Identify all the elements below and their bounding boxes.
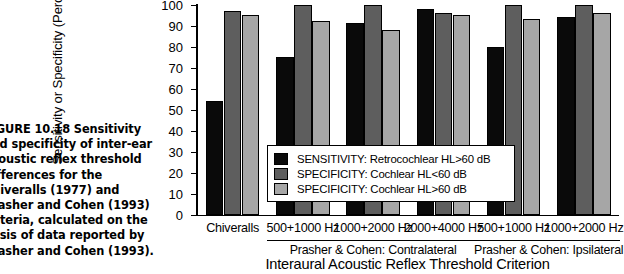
y-axis-tick-label: 100 <box>155 0 183 12</box>
y-axis-tick: 40 <box>191 131 196 133</box>
y-axis-tick: 0 <box>191 215 196 217</box>
x-axis-line <box>196 215 619 217</box>
legend-item: SENSITIVITY: Retrocochlear HL>60 dB <box>274 151 507 166</box>
legend-swatch-specificity-cochlear-gt60 <box>274 183 288 195</box>
bar-group <box>198 4 268 215</box>
bar <box>224 11 242 215</box>
legend-swatch-specificity-cochlear-lt60 <box>274 168 288 180</box>
y-axis-tick: 20 <box>191 173 196 175</box>
legend-label: SENSITIVITY: Retrocochlear HL>60 dB <box>297 153 490 165</box>
x-axis-tick-label: 500+1000 Hz <box>477 221 550 235</box>
bar <box>593 13 611 215</box>
y-axis-tick-label: 50 <box>155 102 183 117</box>
group-bracket-label: Prasher & Cohen: Ipsilateral <box>474 243 623 257</box>
x-axis-tick-label: 2000+4000 Hz <box>404 221 483 235</box>
bar <box>242 15 260 215</box>
legend-item: SPECIFICITY: Cochlear HL<60 dB <box>274 166 507 181</box>
chart-legend: SENSITIVITY: Retrocochlear HL>60 dB SPEC… <box>267 145 515 202</box>
y-axis-label: Sensitivity or Specificity (Percent) <box>50 0 65 178</box>
group-bracket-rule <box>478 240 620 241</box>
y-axis-tick: 70 <box>191 68 196 70</box>
y-axis-tick-label: 90 <box>155 18 183 33</box>
y-axis-tick: 90 <box>191 26 196 28</box>
bar-group <box>549 4 619 215</box>
group-bracket-label: Prasher & Cohen: Contralateral <box>290 243 457 257</box>
x-axis-tick-label: 1000+2000 Hz <box>333 221 412 235</box>
legend-label: SPECIFICITY: Cochlear HL>60 dB <box>297 183 467 195</box>
bar <box>523 19 541 214</box>
bar <box>575 5 593 215</box>
bar <box>206 101 224 214</box>
legend-label: SPECIFICITY: Cochlear HL<60 dB <box>297 168 467 180</box>
legend-item: SPECIFICITY: Cochlear HL>60 dB <box>274 181 507 196</box>
y-axis-tick-label: 60 <box>155 81 183 96</box>
y-axis-tick-label: 0 <box>155 207 183 222</box>
y-axis-tick: 100 <box>191 5 196 7</box>
x-axis-tick-label: 1000+2000 Hz <box>544 221 623 235</box>
y-axis-tick-label: 30 <box>155 144 183 159</box>
bar <box>557 17 575 214</box>
y-axis-tick-label: 20 <box>155 165 183 180</box>
y-axis-tick-label: 80 <box>155 39 183 54</box>
y-axis-tick-label: 40 <box>155 123 183 138</box>
y-axis-tick: 10 <box>191 194 196 196</box>
y-axis-tick: 30 <box>191 152 196 154</box>
y-axis-tick: 80 <box>191 47 196 49</box>
x-axis-tick-label: Chiveralls <box>206 221 259 235</box>
y-axis-tick: 60 <box>191 89 196 91</box>
y-axis-tick: 50 <box>191 110 196 112</box>
x-axis-tick-label: 500+1000 Hz <box>267 221 340 235</box>
y-axis-tick-label: 10 <box>155 186 183 201</box>
group-bracket-rule <box>267 240 480 241</box>
x-axis-label: Interaural Acoustic Reflex Threshold Cri… <box>196 256 619 272</box>
y-axis-tick-label: 70 <box>155 60 183 75</box>
legend-swatch-sensitivity-retrocochlear <box>274 153 288 165</box>
